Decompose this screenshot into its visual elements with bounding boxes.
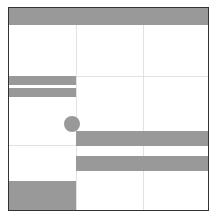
header-bar xyxy=(9,8,208,25)
left-bar-2 xyxy=(9,88,76,97)
left-bar-1 xyxy=(9,76,76,85)
right-bar-1 xyxy=(76,131,208,146)
right-bar-2 xyxy=(76,156,208,171)
bottom-left-block xyxy=(9,181,76,210)
circle xyxy=(64,116,80,132)
grid-line-vertical-2 xyxy=(143,25,144,210)
